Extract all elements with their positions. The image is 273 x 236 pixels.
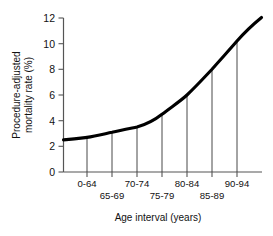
x-category-label: 85-89 (200, 190, 225, 201)
x-category-label: 65-69 (100, 190, 125, 201)
y-tick-label: 0 (49, 166, 55, 178)
x-category-label: 75-79 (150, 190, 175, 201)
y-tick-label: 12 (43, 12, 55, 24)
y-tick-label: 8 (49, 63, 55, 75)
y-tick-label: 10 (43, 38, 55, 50)
y-axis-title-line1: Procedure-adjusted (11, 51, 22, 138)
x-axis-category-labels-row2: 65-69 75-79 85-89 (100, 190, 225, 201)
x-category-label: 80-84 (175, 178, 200, 189)
y-tick-label: 4 (49, 115, 55, 127)
x-category-label: 0-64 (77, 178, 97, 189)
chart-figure: 0 2 4 6 8 10 12 (0, 0, 273, 236)
mortality-rate-line-chart: 0 2 4 6 8 10 12 (0, 0, 273, 236)
x-category-label: 70-74 (125, 178, 150, 189)
y-tick-label: 6 (49, 89, 55, 101)
x-axis-title: Age interval (years) (115, 212, 202, 223)
y-axis-title-line2: mortality rate (%) (23, 57, 34, 133)
x-category-label: 90-94 (225, 178, 250, 189)
y-tick-label: 2 (49, 140, 55, 152)
chart-background (0, 0, 273, 236)
